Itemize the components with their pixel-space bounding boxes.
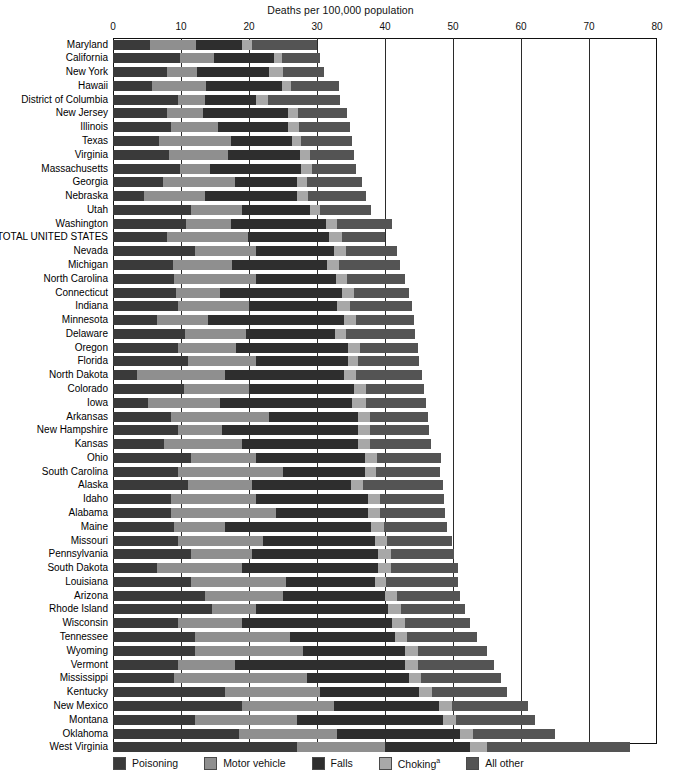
bar-segment-poisoning: [113, 549, 191, 559]
stacked-bar: [113, 398, 426, 408]
bar-segment-choking: [439, 701, 451, 711]
bar-segment-falls: [242, 205, 310, 215]
stacked-bar: [113, 288, 409, 298]
bar-row: Minnesota: [113, 315, 657, 325]
bar-segment-poisoning: [113, 425, 178, 435]
bar-row-label: New Hampshire: [37, 424, 108, 436]
bar-segment-falls: [196, 40, 242, 50]
bar-segment-all-other: [298, 108, 347, 118]
stacked-bar: [113, 729, 555, 739]
bar-segment-poisoning: [113, 301, 178, 311]
bar-row: California: [113, 53, 657, 63]
bar-segment-choking: [351, 480, 363, 490]
bar-segment-all-other: [391, 563, 458, 573]
bar-segment-all-other: [401, 604, 466, 614]
bar-segment-all-other: [339, 260, 400, 270]
bar-segment-poisoning: [113, 177, 163, 187]
bar-segment-choking: [348, 356, 359, 366]
bar-row-label: Nevada: [74, 245, 108, 257]
stacked-bar: [113, 67, 324, 77]
bar-row-label: Tennessee: [60, 631, 108, 643]
bar-segment-choking: [337, 301, 349, 311]
stacked-bar: [113, 81, 339, 91]
bar-segment-motor-vehicle: [178, 536, 263, 546]
bar-segment-choking: [358, 425, 370, 435]
bar-row-label: Connecticut: [55, 287, 108, 299]
bar-segment-motor-vehicle: [173, 260, 232, 270]
bar-segment-poisoning: [113, 632, 195, 642]
bar-segment-motor-vehicle: [163, 177, 234, 187]
bar-segment-all-other: [301, 136, 353, 146]
bar-segment-poisoning: [113, 122, 171, 132]
bar-segment-all-other: [299, 122, 350, 132]
bar-segment-falls: [220, 398, 353, 408]
bar-segment-falls: [256, 604, 389, 614]
bar-segment-choking: [443, 715, 456, 725]
bar-segment-choking: [297, 191, 309, 201]
bar-segment-motor-vehicle: [195, 646, 304, 656]
bar-segment-poisoning: [113, 701, 242, 711]
bar-segment-choking: [358, 439, 370, 449]
bar-segment-all-other: [370, 425, 429, 435]
bar-segment-motor-vehicle: [167, 67, 196, 77]
stacked-bar: [113, 343, 418, 353]
bar-row-label: Maine: [81, 521, 108, 533]
bar-row-label: Mississippi: [60, 672, 108, 684]
bar-segment-falls: [231, 219, 326, 229]
bar-row-label: New Mexico: [54, 700, 108, 712]
bar-segment-falls: [232, 260, 327, 270]
bar-segment-all-other: [380, 508, 445, 518]
stacked-bar: [113, 356, 419, 366]
bar-row: Alaska: [113, 480, 657, 490]
bar-segment-poisoning: [113, 384, 184, 394]
bar-row: New Mexico: [113, 701, 657, 711]
stacked-bar: [113, 274, 405, 284]
bar-row-label: Indiana: [75, 300, 108, 312]
bar-row-label: Colorado: [67, 383, 108, 395]
bar-segment-poisoning: [113, 108, 167, 118]
bar-segment-falls: [242, 618, 392, 628]
stacked-bar: [113, 246, 397, 256]
bar-segment-choking: [334, 246, 346, 256]
bar-segment-all-other: [346, 329, 415, 339]
bar-segment-choking: [301, 164, 312, 174]
stacked-bar: [113, 164, 356, 174]
bar-segment-falls: [225, 370, 344, 380]
bar-segment-falls: [256, 453, 365, 463]
legend-swatch-icon: [204, 757, 217, 770]
bar-segment-choking: [365, 467, 377, 477]
bar-segment-motor-vehicle: [169, 150, 228, 160]
bar-segment-poisoning: [113, 219, 186, 229]
bar-segment-falls: [242, 439, 358, 449]
bar-row: Delaware: [113, 329, 657, 339]
bar-segment-motor-vehicle: [167, 232, 247, 242]
bar-row-label: Georgia: [72, 176, 108, 188]
bar-segment-motor-vehicle: [191, 577, 286, 587]
stacked-bar: [113, 219, 392, 229]
bar-segment-motor-vehicle: [178, 467, 283, 477]
bar-segment-poisoning: [113, 315, 157, 325]
bar-row: South Carolina: [113, 467, 657, 477]
stacked-bar: [113, 412, 428, 422]
bar-segment-poisoning: [113, 687, 225, 697]
bar-segment-motor-vehicle: [178, 618, 243, 628]
stacked-bar: [113, 742, 630, 752]
bar-row-label: Washington: [56, 218, 108, 230]
bar-row-label: Vermont: [71, 659, 108, 671]
legend-label: Poisoning: [132, 757, 178, 769]
stacked-bar: [113, 467, 440, 477]
bar-segment-falls: [218, 122, 287, 132]
bar-segment-poisoning: [113, 191, 144, 201]
bar-row-label: Oregon: [75, 342, 108, 354]
stacked-bar: [113, 439, 431, 449]
bar-segment-choking: [297, 177, 307, 187]
bar-segment-choking: [327, 260, 339, 270]
bar-segment-all-other: [310, 150, 354, 160]
bar-row: Connecticut: [113, 288, 657, 298]
stacked-bar: [113, 453, 441, 463]
bar-segment-poisoning: [113, 673, 174, 683]
bar-segment-poisoning: [113, 577, 191, 587]
bar-row: Michigan: [113, 260, 657, 270]
chart-root: Deaths per 100,000 population 0102030405…: [0, 0, 681, 781]
bar-segment-all-other: [283, 67, 324, 77]
